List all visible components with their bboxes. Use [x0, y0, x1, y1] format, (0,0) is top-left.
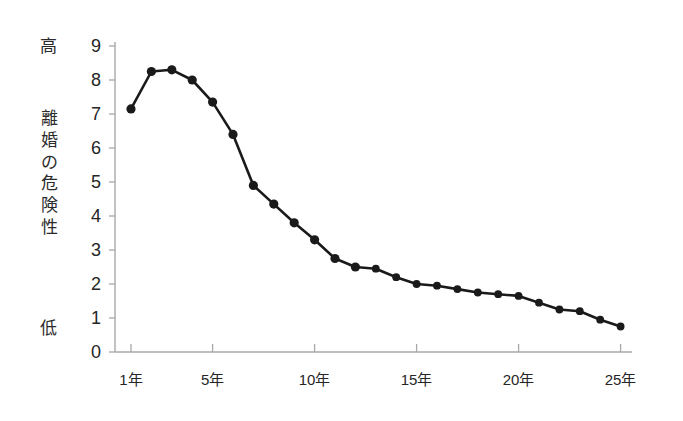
data-point-marker	[454, 285, 462, 293]
series-line	[131, 70, 621, 327]
data-point-marker	[556, 306, 564, 314]
data-point-marker	[351, 262, 360, 271]
data-point-marker	[596, 316, 604, 324]
chart-figure: 高 低 離 婚 の 危 険 性 0123456789 1年5年10年15年20年…	[0, 0, 683, 421]
chart-axes	[109, 42, 632, 352]
data-point-marker	[474, 289, 482, 297]
data-point-marker	[269, 200, 278, 209]
data-point-marker	[413, 280, 421, 288]
data-point-marker	[617, 323, 625, 331]
data-point-marker	[167, 65, 176, 74]
data-point-marker	[290, 218, 299, 227]
data-point-marker	[494, 290, 502, 298]
line-chart-plot	[0, 0, 683, 421]
data-point-marker	[392, 273, 400, 281]
data-point-marker	[188, 75, 197, 84]
data-point-marker	[330, 254, 339, 263]
data-point-marker	[126, 104, 135, 113]
data-point-marker	[515, 292, 523, 300]
data-point-marker	[576, 307, 584, 315]
data-point-marker	[433, 282, 441, 290]
data-series-divorce-risk	[126, 65, 624, 330]
data-point-marker	[147, 67, 156, 76]
data-point-marker	[249, 181, 258, 190]
data-point-marker	[310, 235, 319, 244]
data-point-marker	[208, 98, 217, 107]
data-point-marker	[535, 299, 543, 307]
data-point-marker	[228, 130, 237, 139]
data-point-marker	[372, 265, 380, 273]
